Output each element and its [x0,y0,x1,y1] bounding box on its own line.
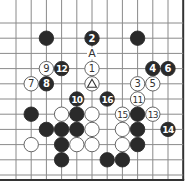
white-stone [54,107,68,121]
point-label-marker: A [88,47,96,60]
black-stone [54,122,68,136]
move-number: 4 [149,63,156,74]
move-number: 10 [71,95,83,105]
white-stone: 1 [85,61,99,75]
black-stone: 4 [146,61,160,75]
white-stone: 3 [130,77,144,91]
black-stone [54,137,68,151]
white-stone: 11 [130,92,144,106]
black-stone: 8 [39,77,53,91]
white-stone [85,107,99,121]
white-stone [85,122,99,136]
move-number: 9 [43,63,49,74]
move-number: 8 [43,78,50,89]
black-stone [70,122,84,136]
black-stone [70,107,84,121]
black-stone [39,31,53,45]
white-stone: 15 [115,107,129,121]
white-stone: 7 [24,77,38,91]
move-number: 12 [56,64,68,74]
white-stone: 5 [146,77,160,91]
black-stone: 10 [70,92,84,106]
white-stone [115,122,129,136]
white-stone: 13 [146,107,160,121]
white-stone [115,137,129,151]
black-stone [130,31,144,45]
move-number: 7 [28,78,34,89]
move-number: 1 [89,63,95,74]
move-number: 15 [117,110,127,120]
black-stone [39,122,53,136]
black-stone [100,153,114,167]
move-number: 2 [89,33,96,44]
move-number: 14 [162,125,174,135]
black-stone: 6 [161,61,175,75]
black-stone: 2 [85,31,99,45]
move-number: 11 [132,95,142,105]
black-stone [115,153,129,167]
move-number: 5 [150,78,156,89]
white-stone [70,137,84,151]
white-stone [85,137,99,151]
move-number: 16 [102,95,114,105]
black-stone [130,122,144,136]
white-stone [85,77,99,91]
black-stone [130,107,144,121]
black-stone [54,153,68,167]
black-stone [24,107,38,121]
black-stone: 14 [161,122,175,136]
go-board: A 29121467835101611151314 [0,0,188,187]
black-stone [130,137,144,151]
white-stone [24,137,38,151]
white-stone: 9 [39,61,53,75]
board-markers: A [87,47,97,60]
black-stone: 16 [100,92,114,106]
black-stone: 12 [54,61,68,75]
move-number: 6 [165,63,172,74]
move-number: 3 [134,78,140,89]
move-number: 13 [148,110,158,120]
